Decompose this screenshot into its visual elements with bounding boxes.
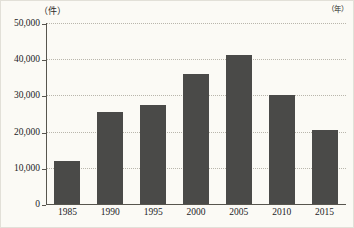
y-tick-label: 30,000 (14, 92, 40, 102)
bar-1985 (54, 161, 80, 204)
x-tick-label: 2000 (173, 207, 219, 218)
x-tick-label: 1995 (130, 207, 176, 218)
y-axis-unit-label: （件） (39, 4, 66, 17)
bar-2000 (183, 74, 209, 204)
x-tick-label: 1990 (87, 207, 133, 218)
bar-series (46, 23, 346, 204)
y-tick-label: 40,000 (14, 55, 40, 65)
bar-2010 (269, 95, 295, 204)
x-axis-unit-label: （年） (327, 3, 348, 14)
bar-1990 (97, 112, 123, 204)
x-axis-tick-labels: 1985199019952000200520102015 (46, 207, 346, 225)
plot-area: 010,00020,00030,00040,00050,000 (46, 23, 346, 204)
x-tick-label: 2005 (216, 207, 262, 218)
x-tick-label: 1985 (44, 207, 90, 218)
bar-2015 (312, 130, 338, 204)
bar-chart-figure: （件） 010,00020,00030,00040,00050,000 1985… (0, 0, 354, 228)
y-tick-label: 10,000 (14, 164, 40, 174)
bar-2005 (226, 55, 252, 204)
bar-1995 (140, 105, 166, 204)
y-tick-label: 0 (35, 200, 40, 210)
x-tick-label: 2015 (302, 207, 348, 218)
x-tick-label: 2010 (259, 207, 305, 218)
y-tick-mark (42, 205, 46, 206)
y-axis-line (46, 23, 47, 205)
axis-baseline: 0 (46, 204, 346, 205)
y-tick-label: 20,000 (14, 128, 40, 138)
y-tick-label: 50,000 (14, 19, 40, 29)
